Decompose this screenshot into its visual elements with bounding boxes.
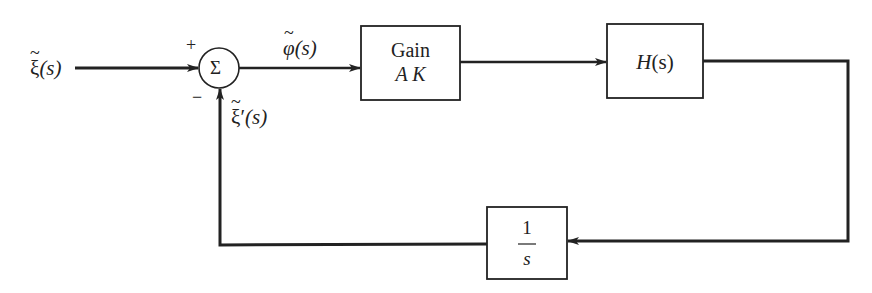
- minus-sign: −: [192, 88, 202, 106]
- gain-block-text: Gain A K: [361, 38, 460, 86]
- error-signal-label: φ(s): [283, 38, 317, 59]
- feedback-signal-label: ξ′(s): [231, 107, 267, 128]
- gain-label: Gain: [361, 38, 460, 62]
- gain-value: A K: [361, 62, 460, 86]
- integrator-denominator: s: [487, 248, 567, 271]
- input-signal-label: ξ(s): [30, 58, 62, 79]
- h-block-text: H(s): [607, 50, 703, 75]
- sigma-symbol: Σ: [210, 58, 221, 77]
- plus-sign: +: [186, 36, 196, 54]
- integrator-numerator: 1: [487, 217, 567, 240]
